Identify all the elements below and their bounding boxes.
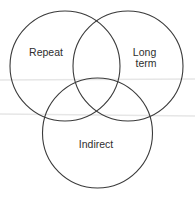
label-indirect: Indirect: [79, 138, 114, 150]
label-long-term-line2: term: [136, 57, 157, 69]
label-repeat: Repeat: [29, 46, 63, 58]
circle-indirect: [43, 78, 153, 188]
label-long-term: Long term: [133, 46, 159, 69]
scan-artifact-line: [0, 79, 195, 80]
circle-long-term: [73, 11, 183, 121]
scan-artifact-line: [0, 114, 195, 116]
circle-repeat: [10, 11, 120, 121]
venn-diagram: Repeat Long term Indirect: [0, 0, 195, 200]
